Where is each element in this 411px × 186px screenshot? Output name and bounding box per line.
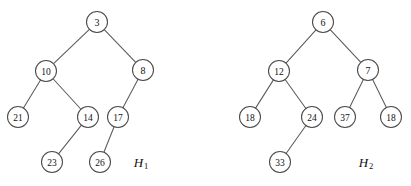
node-value-label: 14 xyxy=(83,113,93,123)
tree-name-labels-layer: H1H2 xyxy=(133,155,374,171)
tree-node: 7 xyxy=(358,60,379,81)
node-value-label: 33 xyxy=(275,158,285,168)
tree-node: 8 xyxy=(133,60,154,81)
tree-name-label: H2 xyxy=(358,155,374,171)
tree-node: 14 xyxy=(78,107,99,128)
tree-node: 26 xyxy=(90,152,111,173)
tree-node: 18 xyxy=(240,107,261,128)
tree-name-subscript: 2 xyxy=(369,161,373,171)
tree-node: 17 xyxy=(108,107,129,128)
tree-edge xyxy=(350,79,364,107)
node-value-label: 21 xyxy=(13,113,23,123)
node-value-label: 18 xyxy=(245,113,255,123)
tree-edge xyxy=(256,80,274,108)
node-value-label: 12 xyxy=(274,67,284,77)
binary-tree-figure: 3108211417232661271824371833 H1H2 xyxy=(0,0,411,186)
tree-node: 10 xyxy=(36,61,57,82)
tree-node: 23 xyxy=(42,152,63,173)
node-value-label: 6 xyxy=(321,17,326,28)
node-value-label: 24 xyxy=(307,113,317,123)
tree-edge xyxy=(53,79,81,110)
node-value-label: 37 xyxy=(340,113,350,123)
node-value-label: 7 xyxy=(366,65,371,76)
tree-node: 21 xyxy=(8,107,29,128)
tree-name-text: H2 xyxy=(358,155,374,171)
tree-edge xyxy=(286,30,316,63)
tree-node: 24 xyxy=(302,107,323,128)
tree-edge xyxy=(286,126,306,154)
edges-layer xyxy=(23,29,386,154)
node-value-label: 8 xyxy=(141,65,146,76)
tree-node: 6 xyxy=(313,12,334,33)
tree-edge xyxy=(54,29,90,63)
node-value-label: 17 xyxy=(113,113,123,123)
tree-edge xyxy=(104,127,114,153)
tree-node: 37 xyxy=(335,107,356,128)
tree-node: 33 xyxy=(270,152,291,173)
tree-edge xyxy=(285,80,306,109)
tree-edge xyxy=(373,79,387,107)
node-value-label: 3 xyxy=(95,17,100,28)
tree-name-label: H1 xyxy=(133,155,149,171)
node-value-label: 23 xyxy=(47,158,57,168)
tree-name-subscript: 1 xyxy=(144,161,148,171)
tree-edge xyxy=(104,30,135,63)
tree-name-text: H1 xyxy=(133,155,149,171)
tree-node: 3 xyxy=(87,12,108,33)
tree-edge xyxy=(330,30,361,63)
tree-edge xyxy=(123,79,138,107)
tree-canvas: 3108211417232661271824371833 H1H2 xyxy=(0,0,411,186)
tree-node: 18 xyxy=(381,107,402,128)
tree-edge xyxy=(59,125,82,154)
nodes-layer: 3108211417232661271824371833 xyxy=(8,12,402,173)
tree-edge xyxy=(23,80,40,108)
node-value-label: 26 xyxy=(95,158,105,168)
node-value-label: 18 xyxy=(386,113,396,123)
tree-node: 12 xyxy=(269,61,290,82)
node-value-label: 10 xyxy=(41,67,51,77)
